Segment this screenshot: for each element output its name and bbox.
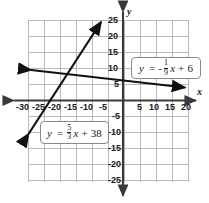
y-axis-name: y	[127, 6, 131, 17]
equation-steep-equals: =	[55, 127, 65, 139]
x-tick-label-5: 5	[137, 102, 142, 112]
x-tick-label--5: -5	[99, 102, 107, 112]
equation-shallow-negative-sign: -	[158, 62, 162, 74]
x-tick-label-15: 15	[165, 102, 175, 112]
y-tick-label-20: 20	[108, 31, 118, 41]
equation-shallow-plus: +	[176, 62, 186, 74]
x-tick-label-10: 10	[149, 102, 159, 112]
equation-steep-plus: +	[79, 127, 89, 139]
equation-shallow-fraction: 1 9	[164, 59, 168, 76]
y-tick-label-5: 5	[114, 79, 119, 89]
x-tick-label--20: -20	[48, 102, 61, 112]
y-tick-label--15: -15	[108, 143, 121, 153]
line-steep-positive-slope	[29, 22, 102, 134]
x-axis-name: x	[197, 86, 202, 97]
equation-shallow-lhs: y	[139, 62, 146, 74]
equation-steep-lhs: y	[47, 127, 54, 139]
equation-label-shallow-line: y = - 1 9 x + 6	[131, 57, 201, 79]
x-tick-label--25: -25	[32, 102, 45, 112]
y-tick-label-25: 25	[108, 15, 118, 25]
equation-shallow-variable: x	[170, 62, 175, 74]
equation-shallow-equals: =	[147, 62, 157, 74]
y-tick-label-15: 15	[108, 47, 118, 57]
equation-shallow-numerator: 1	[164, 59, 168, 67]
y-tick-label--25: -25	[108, 175, 121, 185]
equation-label-steep-line: y = 5 3 x + 38	[40, 121, 109, 144]
equation-steep-intercept: 38	[91, 127, 102, 139]
x-tick-label--15: -15	[64, 102, 77, 112]
equation-steep-numerator: 5	[67, 124, 71, 132]
equation-steep-variable: x	[73, 127, 78, 139]
y-tick-label--10: -10	[108, 127, 121, 137]
x-tick-label--30: -30	[16, 102, 29, 112]
coordinate-plane-figure: -30 -25 -20 -15 -10 -5 5 10 15 20 25 20 …	[0, 0, 209, 203]
equation-steep-fraction: 5 3	[67, 124, 71, 141]
y-tick-label-10: 10	[108, 63, 118, 73]
y-tick-label--20: -20	[108, 159, 121, 169]
equation-shallow-denominator: 9	[164, 68, 168, 77]
equation-shallow-intercept: 6	[187, 62, 193, 74]
y-tick-label--5: -5	[112, 111, 120, 121]
equation-steep-denominator: 3	[67, 132, 71, 141]
x-tick-label-20: 20	[181, 102, 191, 112]
x-tick-label--10: -10	[80, 102, 93, 112]
